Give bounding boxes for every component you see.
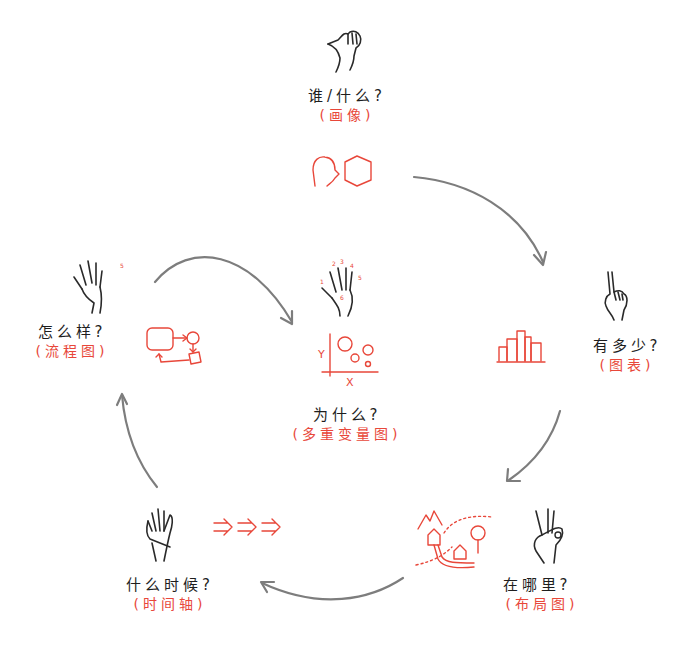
svg-text:4: 4 bbox=[350, 262, 354, 269]
hand-two-fingers-icon bbox=[598, 264, 638, 324]
svg-text:1: 1 bbox=[320, 278, 324, 285]
hand-six-fingers-icon: 2 3 4 5 1 6 bbox=[318, 258, 378, 318]
question-how: 怎么样? bbox=[22, 320, 122, 341]
bar-chart-icon bbox=[495, 325, 555, 365]
flowchart-icon bbox=[145, 322, 215, 372]
question-how-much: 有多少? bbox=[582, 334, 672, 355]
finger-count-5: 5 bbox=[120, 262, 130, 272]
axis-y-label: Y bbox=[317, 348, 325, 361]
svg-text:5: 5 bbox=[358, 274, 362, 281]
svg-text:2: 2 bbox=[332, 260, 336, 267]
question-why: 为什么? bbox=[292, 403, 402, 424]
hand-four-fingers-icon bbox=[140, 503, 190, 563]
chart-type-chart: (图表) bbox=[582, 354, 672, 374]
question-where: 在哪里? bbox=[492, 573, 582, 594]
map-icon bbox=[414, 505, 494, 575]
hand-five-fingers-icon bbox=[70, 255, 125, 315]
question-when: 什么时候? bbox=[120, 573, 220, 594]
svg-text:5: 5 bbox=[120, 262, 124, 269]
chart-type-multivariable: (多重变量图) bbox=[262, 423, 432, 443]
portrait-icon bbox=[305, 152, 385, 192]
chart-type-flowchart: (流程图) bbox=[22, 340, 122, 360]
chart-type-portrait: (画像) bbox=[292, 104, 402, 124]
svg-text:3: 3 bbox=[340, 258, 344, 265]
timeline-arrows-icon bbox=[210, 515, 290, 539]
hand-one-finger-icon bbox=[318, 28, 368, 78]
svg-text:6: 6 bbox=[340, 294, 344, 301]
question-who-what: 谁/什么? bbox=[292, 84, 402, 105]
hand-three-fingers-icon bbox=[528, 505, 573, 565]
chart-type-layout: (布局图) bbox=[492, 593, 592, 613]
scatter-plot-icon: Y X bbox=[318, 330, 388, 390]
axis-x-label: X bbox=[346, 376, 354, 389]
chart-type-timeline: (时间轴) bbox=[120, 593, 220, 613]
